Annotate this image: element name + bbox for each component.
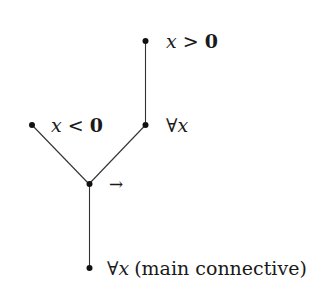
- node-right: [143, 122, 149, 128]
- node-junction: [87, 181, 93, 187]
- label-root: ∀x(main connective): [107, 257, 307, 279]
- label-right: ∀x: [166, 114, 188, 136]
- node-left: [29, 122, 35, 128]
- label-left: x<0: [51, 114, 103, 136]
- node-root: [87, 265, 93, 271]
- label-junction: →: [109, 174, 123, 194]
- parse-tree-diagram: x>0 x<0 ∀x → ∀x(main connective): [0, 0, 333, 286]
- label-top: x>0: [166, 30, 218, 52]
- node-top: [143, 38, 149, 44]
